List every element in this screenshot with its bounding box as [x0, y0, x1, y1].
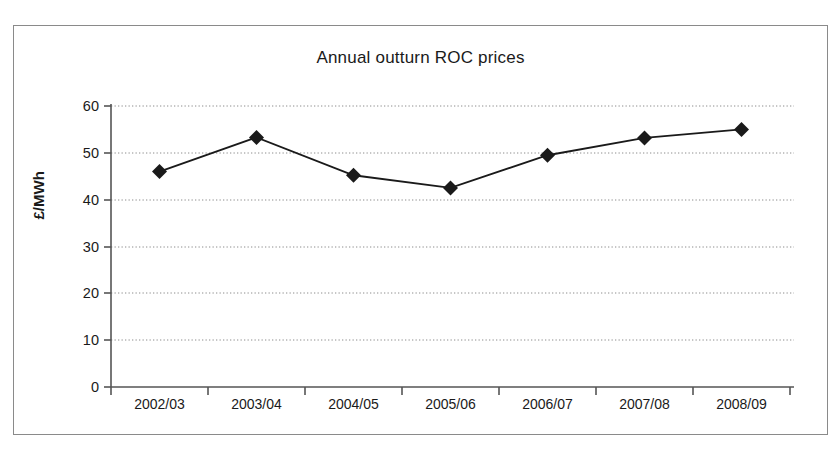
- x-tick-label-2008-09: 2008/09: [716, 396, 767, 412]
- y-axis: [104, 104, 111, 387]
- y-tick-label-60: 60: [69, 98, 99, 114]
- gridlines: [111, 106, 794, 340]
- x-axis-tick-labels: 2002/03 2003/04 2004/05 2005/06 2006/07 …: [14, 396, 829, 426]
- x-tick-label-2003-04: 2003/04: [231, 396, 282, 412]
- x-axis: [111, 387, 794, 395]
- figure-frame: Annual outturn ROC prices £/MWh 60 50 40…: [13, 25, 828, 435]
- y-tick-label-0: 0: [69, 379, 99, 395]
- data-point-2008-09: [734, 122, 749, 137]
- y-tick-label-20: 20: [69, 285, 99, 301]
- y-axis-tick-labels: 60 50 40 30 20 10 0: [59, 26, 99, 436]
- x-tick-label-2005-06: 2005/06: [425, 396, 476, 412]
- y-tick-label-40: 40: [69, 192, 99, 208]
- data-point-2006-07: [540, 148, 555, 163]
- chart-canvas: [14, 26, 829, 436]
- y-tick-label-50: 50: [69, 145, 99, 161]
- y-tick-label-30: 30: [69, 239, 99, 255]
- y-axis-label: £/MWh: [30, 200, 47, 220]
- x-tick-label-2002-03: 2002/03: [134, 396, 185, 412]
- data-markers: [152, 122, 749, 195]
- x-tick-label-2007-08: 2007/08: [619, 396, 670, 412]
- data-point-2003-04: [249, 130, 264, 145]
- data-point-2004-05: [346, 168, 361, 183]
- y-tick-label-10: 10: [69, 332, 99, 348]
- x-tick-label-2006-07: 2006/07: [522, 396, 573, 412]
- data-point-2005-06: [443, 180, 458, 195]
- data-line-series-1: [160, 129, 742, 188]
- plot-area: £/MWh 60 50 40 30 20 10 0: [14, 26, 829, 436]
- data-point-2002-03: [152, 164, 167, 179]
- data-point-2007-08: [637, 130, 652, 145]
- x-tick-label-2004-05: 2004/05: [328, 396, 379, 412]
